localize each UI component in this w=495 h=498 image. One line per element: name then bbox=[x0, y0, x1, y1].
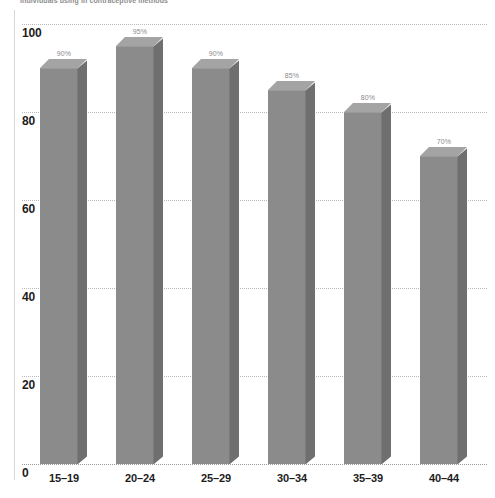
bar bbox=[192, 68, 230, 464]
bar-front-face bbox=[344, 112, 382, 464]
bar-top-rim bbox=[268, 90, 306, 91]
bar-side-face bbox=[306, 82, 315, 464]
bar-chart: individuals using in contraceptive metho… bbox=[0, 0, 495, 498]
bar-slot bbox=[406, 24, 482, 464]
x-tick-label: 25–29 bbox=[178, 472, 254, 484]
value-label: 90% bbox=[26, 50, 102, 58]
x-tick-label: 35–39 bbox=[330, 472, 406, 484]
value-label: 85% bbox=[254, 72, 330, 80]
value-label: 90% bbox=[178, 50, 254, 58]
bar-slot bbox=[178, 24, 254, 464]
bar-front-face bbox=[420, 156, 458, 464]
y-axis-spine bbox=[14, 10, 15, 480]
bar-front-face bbox=[40, 68, 78, 464]
bar-side-face bbox=[458, 148, 467, 464]
bar-top-rim bbox=[420, 156, 458, 157]
bar bbox=[344, 112, 382, 464]
bar bbox=[40, 68, 78, 464]
bar bbox=[420, 156, 458, 464]
value-label: 80% bbox=[330, 94, 406, 102]
gridline-0 bbox=[22, 464, 487, 466]
bar bbox=[268, 90, 306, 464]
x-tick-label: 20–24 bbox=[102, 472, 178, 484]
bar bbox=[116, 46, 154, 464]
plot-area: 020406080100 90%95%90%85%80%70% 15–1920–… bbox=[0, 0, 495, 498]
bar-front-face bbox=[268, 90, 306, 464]
x-tick-label: 40–44 bbox=[406, 472, 482, 484]
bar-side-face bbox=[382, 104, 391, 464]
bar-slot bbox=[330, 24, 406, 464]
x-tick-label: 30–34 bbox=[254, 472, 330, 484]
value-label: 70% bbox=[406, 138, 482, 146]
bar-side-face bbox=[154, 38, 163, 464]
x-tick-label: 15–19 bbox=[26, 472, 102, 484]
value-label: 95% bbox=[102, 28, 178, 36]
bar-front-face bbox=[192, 68, 230, 464]
bar-slot bbox=[26, 24, 102, 464]
bar-top-rim bbox=[40, 68, 78, 69]
bar-front-face bbox=[116, 46, 154, 464]
bar-side-face bbox=[78, 60, 87, 464]
bar-top-rim bbox=[344, 112, 382, 113]
bar-slot bbox=[102, 24, 178, 464]
bar-side-face bbox=[230, 60, 239, 464]
bar-top-rim bbox=[192, 68, 230, 69]
bar-slot bbox=[254, 24, 330, 464]
bar-top-rim bbox=[116, 46, 154, 47]
